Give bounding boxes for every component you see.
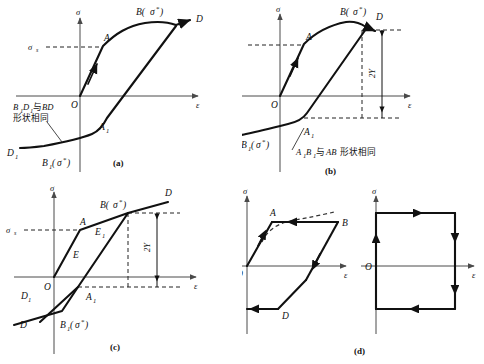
point-label-B-c: B( σ * )	[100, 198, 126, 211]
point-label-D2-c: D	[19, 320, 27, 330]
point-label-D-c: D	[164, 188, 172, 198]
svg-text:σ: σ	[150, 7, 155, 17]
loading-curve-b	[280, 22, 366, 96]
svg-text:BD: BD	[42, 102, 54, 112]
origin-label-b: O	[271, 100, 278, 110]
point-label-A-b: A	[305, 32, 312, 42]
note-text-a: B 1 D 1 与 BD 形状相同	[13, 102, 54, 123]
point-label-D-a: D	[195, 14, 203, 24]
panel-a: σ ε O σ s A D B( σ * ) A 1 D 1 B	[0, 0, 242, 182]
svg-text:σ: σ	[57, 158, 62, 168]
point-label-A-c: A	[79, 217, 86, 227]
origin-label-d-left: O	[242, 269, 243, 279]
svg-text:): )	[159, 7, 163, 18]
panel-b: σ ε O σ s A D B( σ * ) A 1 B 1 ( σ *	[242, 0, 484, 182]
axis-y-label-a: σ	[76, 7, 81, 17]
svg-text:σ: σ	[353, 7, 358, 17]
svg-text:AB: AB	[325, 147, 337, 157]
svg-text:): )	[265, 140, 269, 151]
svg-text:B(: B(	[340, 7, 350, 18]
axis-x-label-b: ε	[408, 100, 412, 110]
yield-sub-c: s	[14, 230, 17, 236]
axis-y-label-b: σ	[276, 4, 281, 14]
svg-text:B: B	[306, 147, 312, 157]
yield-label-c: σ	[6, 225, 11, 235]
loading-curve-a	[80, 22, 176, 96]
figure-root: σ ε O σ s A D B( σ * ) A 1 D 1 B	[0, 0, 484, 364]
point-label-A1-b: A 1	[303, 127, 314, 139]
point-label-E-c: E	[72, 250, 79, 260]
segment-D-lower-d	[278, 280, 306, 309]
reverse-curve-a	[20, 26, 176, 148]
point-label-A1-a: A 1	[98, 122, 109, 134]
axis-x-label-c: ε	[194, 281, 198, 291]
panel-caption-b: (b)	[325, 166, 336, 176]
svg-text:1: 1	[93, 297, 96, 304]
point-label-B-b: B( σ * )	[340, 5, 366, 18]
svg-text:B(: B(	[100, 200, 110, 211]
yield-sub-a: s	[36, 47, 39, 53]
point-label-B1-b: B 1 ( σ * )	[242, 138, 269, 152]
point-label-A1-c: A 1	[85, 292, 96, 304]
svg-text:D: D	[22, 102, 30, 112]
note-leader-a	[47, 122, 62, 142]
svg-text:B: B	[242, 140, 247, 150]
axis-x-label-d-right: ε	[472, 270, 476, 280]
svg-text:形状相同: 形状相同	[340, 146, 376, 157]
svg-text:(: (	[52, 158, 56, 169]
svg-text:形状相同: 形状相同	[13, 112, 49, 123]
axis-x-label-a: ε	[196, 100, 200, 110]
svg-text:): )	[122, 200, 126, 211]
svg-text:A: A	[295, 147, 302, 157]
yield-label-a: σ	[28, 42, 33, 52]
svg-text:): )	[84, 320, 88, 331]
axis-x-label-d-left: ε	[344, 270, 348, 280]
svg-text:σ: σ	[75, 320, 80, 330]
svg-text:B(: B(	[136, 7, 146, 18]
loading-curve-tail-a	[176, 20, 190, 25]
svg-text:A: A	[98, 122, 105, 132]
svg-text:1: 1	[28, 296, 31, 303]
svg-text:1: 1	[106, 127, 109, 134]
point-label-D-b: D	[375, 12, 383, 22]
segment-B-D-d	[306, 222, 338, 280]
point-label-A-a: A	[103, 33, 110, 43]
panel-caption-a: (a)	[113, 158, 124, 168]
subfigure-rectangle: σ ε O	[361, 186, 476, 334]
svg-text:与: 与	[316, 147, 325, 157]
svg-text:D: D	[6, 148, 14, 158]
subfigure-parallelogram: σ ε O A B D E	[242, 186, 348, 334]
note-text-b: A 1 B 1 与 AB 形状相同	[295, 146, 376, 159]
point-label-D1-a: D 1	[6, 148, 18, 160]
dimension-label-c: 2Y	[142, 242, 152, 252]
svg-text:1: 1	[102, 232, 105, 239]
svg-text:): )	[66, 158, 70, 169]
axis-y-label-d-right: σ	[372, 186, 377, 196]
panel-c: σ ε O σ s A D E E 1 B( σ * ) A 1	[0, 182, 242, 364]
panel-caption-c: (c)	[110, 342, 120, 352]
arrow-B-D-d	[314, 254, 320, 266]
panel-caption-d: (d)	[354, 346, 365, 356]
origin-label-c: O	[44, 282, 51, 292]
svg-text:E: E	[94, 227, 101, 237]
point-label-E1-c: E 1	[94, 227, 105, 239]
svg-text:σ: σ	[113, 200, 118, 210]
origin-label-a: O	[71, 100, 78, 110]
point-label-B-d: B	[342, 218, 348, 228]
point-label-B-a: B( σ * )	[136, 5, 163, 18]
dimension-label-b: 2Y	[367, 68, 377, 78]
axis-y-label-c: σ	[50, 183, 55, 193]
svg-text:1: 1	[311, 132, 314, 139]
svg-text:B: B	[42, 158, 48, 168]
point-label-B1-a: B 1 ( σ * )	[42, 156, 70, 170]
svg-text:B: B	[60, 320, 66, 330]
origin-label-d-right: O	[365, 262, 372, 272]
svg-text:(: (	[251, 140, 255, 151]
panel-d: σ ε O A B D E	[242, 182, 484, 364]
point-label-B1-c: B 1 ( σ * )	[60, 318, 88, 332]
point-label-A-d: A	[269, 208, 276, 218]
direction-arrow-b	[290, 58, 298, 76]
point-label-D1-c: D 1	[20, 291, 31, 303]
svg-text:): )	[362, 7, 366, 18]
svg-text:D: D	[20, 291, 28, 301]
